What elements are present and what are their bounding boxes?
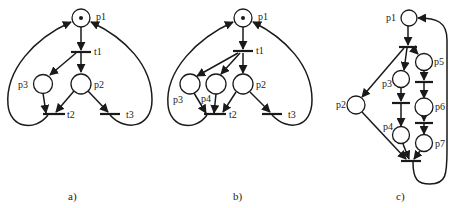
label-p2: p2 (94, 79, 104, 90)
arc-p2-t3 (88, 91, 108, 112)
label-p7: p7 (435, 138, 445, 149)
label-p3: p3 (18, 79, 28, 90)
arc-t3-p1 (91, 22, 152, 125)
place-p6 (415, 98, 433, 116)
place-p3 (393, 71, 410, 88)
label-p1: p1 (258, 11, 268, 22)
token (241, 16, 245, 20)
label-t2: t2 (229, 109, 237, 120)
panel-b: p1 t1 p3 p4 p2 t2 t3 b) (168, 9, 312, 203)
panel-a: p1 t1 p3 p2 t2 t3 a) (8, 9, 152, 203)
token (79, 16, 83, 20)
label-t3: t3 (288, 109, 296, 120)
label-p5: p5 (434, 56, 444, 67)
label-t2: t2 (67, 109, 75, 120)
arc-p7-join (414, 151, 420, 159)
label-t1: t1 (256, 45, 264, 56)
label-p4: p4 (383, 121, 393, 132)
arc-t3-p1 (253, 22, 312, 125)
arc-t1-p3 (197, 53, 238, 76)
label-t1: t1 (94, 46, 102, 57)
place-p2 (233, 74, 253, 94)
label-p3: p3 (382, 78, 392, 89)
place-p3 (34, 75, 53, 94)
place-p5 (416, 54, 433, 71)
place-p4 (393, 127, 410, 144)
arc-fork-p5 (412, 48, 418, 54)
label-p6: p6 (435, 101, 445, 112)
place-p4 (206, 74, 226, 94)
place-p3 (180, 74, 200, 94)
label-p1: p1 (96, 11, 106, 22)
arc-p4-t2 (214, 94, 216, 113)
label-p2: p2 (336, 99, 346, 110)
arc-t1-p3 (50, 53, 76, 75)
label-p4: p4 (201, 93, 211, 104)
place-p2 (71, 74, 91, 94)
place-p2 (347, 96, 365, 114)
label-p2: p2 (256, 79, 266, 90)
label-p1: p1 (386, 12, 396, 23)
arc-p2-t3 (250, 92, 270, 112)
caption-c: c) (396, 190, 405, 203)
place-p1 (401, 10, 417, 26)
caption-b: b) (233, 190, 243, 203)
label-p3: p3 (173, 94, 183, 105)
label-t3: t3 (126, 109, 134, 120)
panel-c: p1 p2 p3 p4 p5 p6 p7 c) (336, 10, 447, 203)
arc-t2-p1 (8, 22, 71, 125)
petri-net-figure: p1 t1 p3 p2 t2 t3 a) p1 t1 p3 p4 p2 t2 t… (0, 0, 453, 208)
arc-fork-p3 (404, 48, 407, 70)
arc-p3-t2 (43, 93, 46, 113)
arc-t1-p4 (221, 53, 240, 74)
caption-a: a) (68, 190, 77, 203)
place-p7 (416, 135, 433, 152)
